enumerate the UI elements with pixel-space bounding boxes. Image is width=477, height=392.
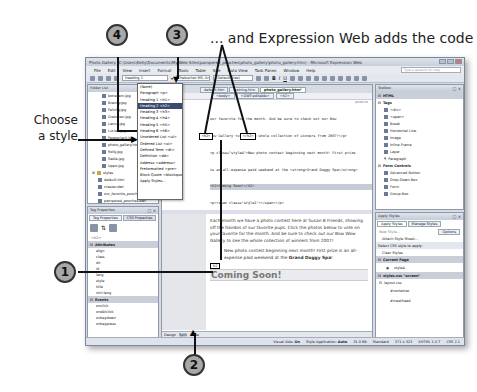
callout-number-3: 3: [166, 24, 188, 46]
style-option[interactable]: Address <address>: [138, 160, 182, 166]
callout-number-4: 4: [106, 24, 128, 46]
close-tag-marker: </h2>: [240, 133, 256, 140]
style-option[interactable]: Apply Styles...: [138, 178, 182, 184]
style-option[interactable]: Unordered List <ul>: [138, 134, 182, 140]
style-dropdown-list: (None) Paragraph <p> Heading 1 <h1> Head…: [137, 83, 183, 200]
callout-number-2: 2: [183, 354, 205, 376]
header-callout-lines: [0, 0, 477, 392]
callout-number-1: 1: [54, 261, 76, 283]
open-tag-marker: <h2>: [199, 133, 213, 140]
